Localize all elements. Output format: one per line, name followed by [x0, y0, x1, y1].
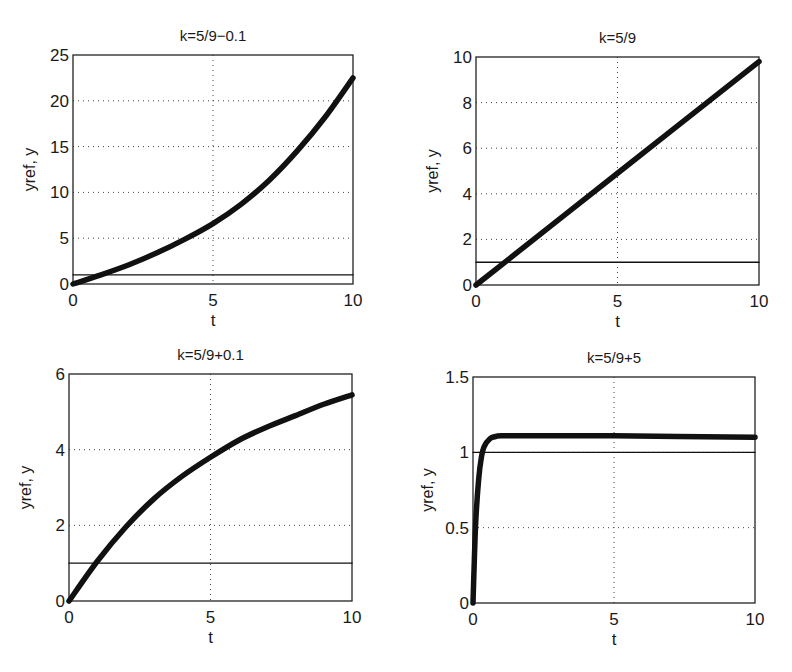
y-tick-label: 1: [460, 443, 469, 462]
x-tick-label: 0: [468, 610, 477, 629]
y-tick-label: 0: [56, 592, 65, 611]
x-tick-label: 10: [746, 610, 765, 629]
x-tick-label: 10: [344, 291, 363, 310]
chart-title: k=5/9: [599, 29, 636, 46]
y-tick-label: 20: [50, 92, 69, 111]
x-tick-label: 10: [750, 292, 769, 311]
subplot-k-plus: 05100246k=5/9+0.1tyref, y: [17, 346, 361, 647]
y-tick-label: 8: [463, 94, 472, 113]
subplot-k-critical: 05100246810k=5/9tyref, y: [424, 29, 768, 331]
x-tick-label: 5: [208, 291, 217, 310]
chart-title: k=5/9+0.1: [177, 346, 244, 363]
y-tick-label: 15: [50, 138, 69, 157]
subplot-k-large: 051000.511.5k=5/9+5tyref, y: [419, 349, 764, 649]
y-tick-label: 6: [463, 139, 472, 158]
x-axis-label: t: [615, 312, 620, 331]
y-tick-label: 10: [50, 183, 69, 202]
y-tick-label: 4: [56, 441, 65, 460]
y-tick-label: 2: [56, 516, 65, 535]
y-axis-label: yref, y: [419, 468, 436, 512]
x-tick-label: 10: [343, 608, 362, 627]
axes-box: [473, 377, 755, 603]
x-tick-label: 0: [64, 608, 73, 627]
chart-title: k=5/9−0.1: [180, 27, 247, 44]
y-tick-label: 4: [463, 185, 472, 204]
y-tick-label: 0.5: [445, 519, 469, 538]
x-tick-label: 5: [609, 610, 618, 629]
y-tick-label: 0: [463, 276, 472, 295]
x-tick-label: 5: [206, 608, 215, 627]
y-tick-label: 25: [50, 46, 69, 65]
x-axis-label: t: [612, 630, 617, 649]
series-y: [69, 395, 352, 601]
x-tick-label: 5: [613, 292, 622, 311]
y-tick-label: 5: [60, 229, 69, 248]
y-axis-label: yref, y: [17, 466, 34, 510]
y-tick-label: 0: [60, 275, 69, 294]
chart-title: k=5/9+5: [587, 349, 641, 366]
x-axis-label: t: [208, 628, 213, 647]
y-tick-label: 2: [463, 230, 472, 249]
x-tick-label: 0: [68, 291, 77, 310]
y-axis-label: yref, y: [21, 148, 38, 192]
x-tick-label: 0: [471, 292, 480, 311]
subplot-k-minus: 05100510152025k=5/9−0.1tyref, y: [21, 27, 362, 330]
y-axis-label: yref, y: [424, 149, 441, 193]
y-tick-label: 10: [453, 48, 472, 67]
series-y: [476, 62, 759, 285]
y-tick-label: 6: [56, 365, 65, 384]
x-axis-label: t: [211, 311, 216, 330]
y-tick-label: 1.5: [445, 368, 469, 387]
y-tick-label: 0: [460, 594, 469, 613]
axes-box: [73, 55, 353, 284]
figure: 05100510152025k=5/9−0.1tyref, y 05100246…: [0, 0, 792, 672]
